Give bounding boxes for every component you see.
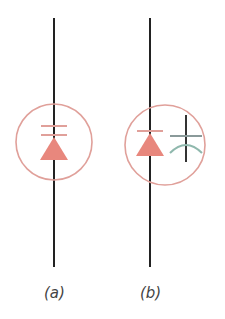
panel-b-symbol — [125, 18, 205, 267]
diode-triangle-b — [136, 133, 164, 156]
label-a: (a) — [44, 284, 65, 302]
diagram-canvas — [0, 0, 225, 319]
diode-triangle-a — [40, 137, 68, 160]
circle-b — [125, 105, 205, 185]
panel-a-symbol — [16, 18, 92, 267]
label-b: (b) — [140, 284, 161, 302]
